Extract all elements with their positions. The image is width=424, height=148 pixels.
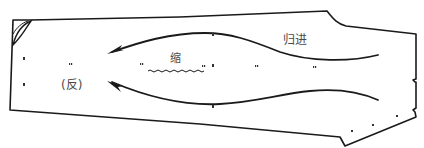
wavy-shrink-line [148,70,204,72]
upper-ease-arrow-line [112,33,378,60]
shrink-label: 缩 [170,53,181,64]
lower-ease-arrow-line [112,82,378,104]
ease-in-label: 归进 [283,34,307,46]
pattern-diagram: 归进 缩 (反) [0,0,424,148]
pattern-drawing [0,0,424,148]
corner-wedge [13,21,31,45]
corner-wedge-inner [13,21,28,34]
reverse-side-label: (反) [61,79,82,91]
